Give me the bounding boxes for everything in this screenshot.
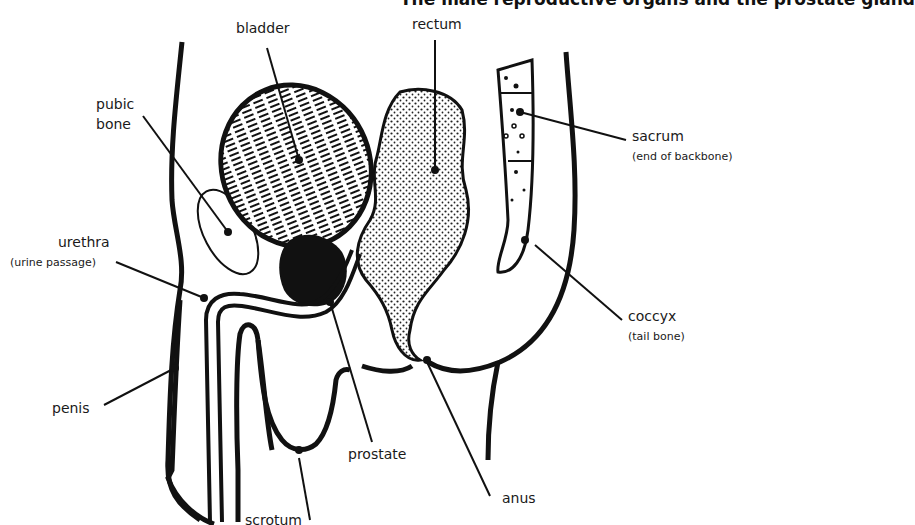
- label-bladder: bladder: [236, 20, 290, 36]
- label-coccyx: coccyx: [628, 308, 676, 324]
- label-urethra: urethra: [58, 234, 110, 250]
- label-scrotum: scrotum: [245, 512, 302, 525]
- scrotum-shape: [258, 340, 350, 450]
- rectum-shape: [357, 89, 468, 360]
- label-sacrum-sub: (end of backbone): [632, 150, 733, 163]
- label-urethra-sub: (urine passage): [10, 256, 96, 269]
- buttock-lower: [488, 362, 498, 460]
- label-sacrum: sacrum: [632, 128, 684, 144]
- label-pubic-bone-line1: pubic: [96, 96, 134, 112]
- label-penis: penis: [52, 400, 90, 416]
- urethra-outer: [206, 250, 352, 522]
- penis-inner: [237, 325, 272, 522]
- label-rectum: rectum: [412, 16, 462, 32]
- perineum-line: [362, 366, 412, 371]
- label-coccyx-sub: (tail bone): [628, 330, 685, 343]
- prostate-shape: [279, 235, 347, 307]
- label-prostate: prostate: [348, 446, 406, 462]
- label-anus: anus: [502, 490, 536, 506]
- label-pubic-bone-line2: bone: [96, 116, 131, 132]
